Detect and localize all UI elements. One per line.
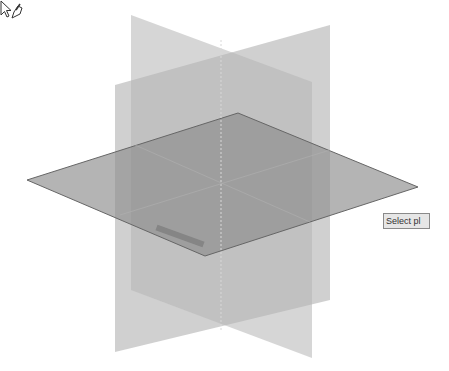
select-plane-cursor-icon <box>0 0 24 22</box>
horizontal-plane[interactable] <box>27 113 418 256</box>
3d-viewport[interactable]: Select pl <box>0 0 449 371</box>
tooltip: Select pl <box>383 213 430 229</box>
planes-graphic <box>0 0 449 371</box>
